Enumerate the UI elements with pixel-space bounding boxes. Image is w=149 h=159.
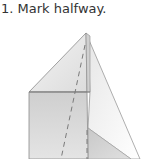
origami-diagram	[0, 0, 149, 159]
front-flap	[29, 92, 90, 159]
upper-left-face	[29, 33, 87, 92]
center-edge-strip	[86, 33, 90, 92]
